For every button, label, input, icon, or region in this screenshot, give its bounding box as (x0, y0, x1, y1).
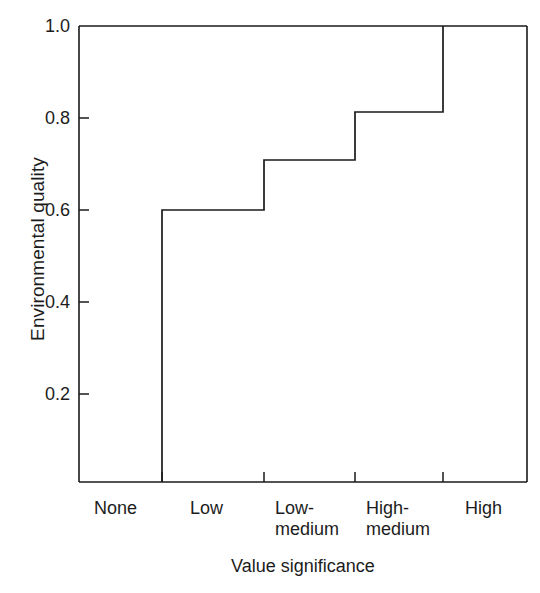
y-tick-label-3: 0.6 (10, 201, 70, 219)
x-axis-title: Value significance (79, 556, 527, 577)
x-tick-label-none: None (94, 498, 137, 519)
x-tick-label-high: High (465, 498, 502, 519)
chart-plot-area (0, 0, 540, 593)
y-tick-label-4: 0.4 (10, 293, 70, 311)
y-axis-title: Environmental quality (27, 119, 49, 379)
step-line-series (162, 26, 443, 482)
y-tick-label-1: 1.0 (10, 17, 70, 35)
y-tick-label-2: 0.8 (10, 109, 70, 127)
y-tick-label-5: 0.2 (10, 385, 70, 403)
x-tick-label-low-medium: Low- medium (275, 498, 339, 540)
axis-frame (79, 26, 527, 482)
x-tick-label-low: Low (190, 498, 223, 519)
x-tick-marks (162, 472, 443, 482)
x-tick-label-high-medium: High- medium (366, 498, 430, 540)
chart-figure: Environmental quality 1.0 0.8 0.6 0.4 0.… (0, 0, 540, 593)
y-tick-marks (79, 118, 89, 394)
